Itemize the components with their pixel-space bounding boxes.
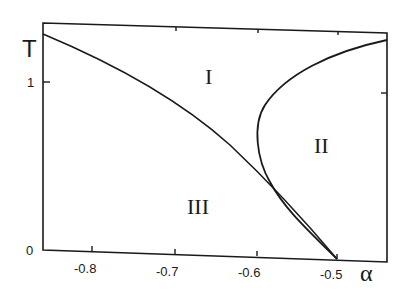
region-label-II: II: [314, 133, 329, 158]
y-axis-title: T: [22, 35, 37, 62]
region-label-I: I: [205, 64, 212, 89]
region-label-III: III: [187, 194, 209, 219]
x-tick-label-m06: -0.6: [238, 265, 260, 280]
y-tick-label-0: 0: [26, 243, 33, 258]
x-axis-title: α: [360, 260, 373, 286]
plot-frame: [43, 23, 387, 262]
phase-diagram: T α 1 0 -0.8 -0.7 -0.6 -0.5 I II III: [0, 0, 405, 298]
x-tick-label-m07: -0.7: [156, 264, 178, 279]
x-tick-label-m08: -0.8: [74, 261, 96, 276]
x-tick-label-m05: -0.5: [320, 267, 342, 282]
boundary-curve-I-III: [43, 34, 337, 259]
y-tick-label-1: 1: [27, 75, 34, 90]
